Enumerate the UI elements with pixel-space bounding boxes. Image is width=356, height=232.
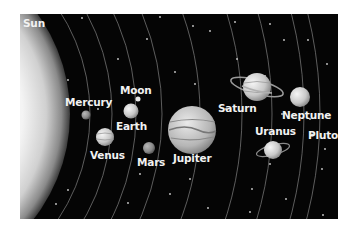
planet-saturn — [229, 73, 285, 101]
star — [81, 17, 83, 19]
label-mercury: Mercury — [65, 97, 112, 108]
star — [67, 79, 69, 81]
star — [67, 189, 69, 191]
planet-mars — [143, 142, 155, 154]
planet-mercury — [82, 111, 91, 120]
label-moon: Moon — [120, 85, 152, 96]
star — [326, 63, 328, 65]
moon-body — [136, 97, 141, 102]
star — [192, 25, 194, 27]
star — [97, 108, 99, 110]
label-mars: Mars — [137, 157, 165, 168]
planet-venus — [96, 128, 114, 146]
label-neptune: Neptune — [282, 110, 331, 121]
star — [207, 207, 209, 209]
label-saturn: Saturn — [218, 103, 257, 114]
star — [283, 39, 285, 41]
star — [249, 211, 251, 213]
solar-system-image: Sun Mercury Venus Earth Moon Mars Jupite… — [20, 14, 338, 219]
label-uranus: Uranus — [255, 126, 296, 137]
label-sun: Sun — [23, 18, 45, 29]
star — [117, 58, 119, 60]
star — [234, 21, 236, 23]
planet-uranus — [255, 141, 290, 159]
label-jupiter: Jupiter — [173, 153, 211, 164]
star — [127, 202, 129, 204]
star — [174, 71, 176, 73]
star — [194, 83, 196, 85]
star — [159, 16, 161, 18]
planet-earth — [124, 104, 139, 119]
star — [269, 163, 271, 165]
planet-neptune — [290, 87, 310, 107]
star — [209, 30, 211, 32]
star — [269, 23, 271, 25]
star — [321, 168, 323, 170]
star — [146, 38, 148, 40]
star — [236, 58, 238, 60]
star — [307, 39, 309, 41]
star — [322, 214, 324, 216]
star — [139, 173, 141, 175]
star — [324, 148, 326, 150]
star — [189, 178, 191, 180]
sun-body — [20, 14, 70, 219]
star — [251, 188, 253, 190]
star — [169, 193, 171, 195]
star — [285, 198, 287, 200]
label-earth: Earth — [116, 121, 147, 132]
planet-jupiter — [168, 106, 216, 154]
star — [55, 203, 57, 205]
label-venus: Venus — [90, 150, 125, 161]
label-pluto: Pluto — [308, 130, 338, 141]
